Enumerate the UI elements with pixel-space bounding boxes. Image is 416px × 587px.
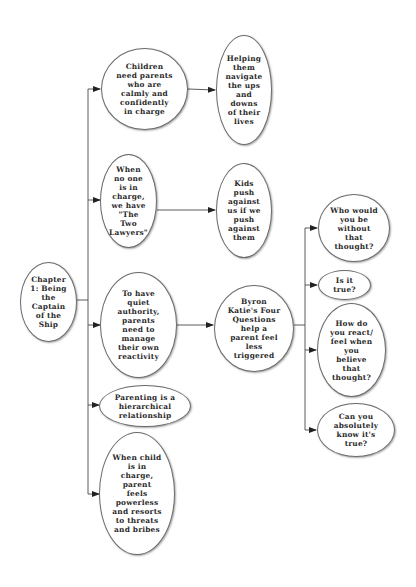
node-question-is-it-true: Is it true? [318, 270, 371, 300]
node-label: Kids push against us if we push against … [227, 179, 260, 242]
node-helping-them-navigate: Helping them navigate the ups and downs … [216, 35, 272, 145]
node-label: To have quiet authority, parents need to… [117, 289, 159, 361]
node-label: Who would you be without that thought? [330, 206, 378, 251]
node-children-need-parents: Children need parents who are calmly and… [101, 48, 188, 130]
node-label: Byron Katie's Four Questions help a pare… [228, 297, 281, 360]
node-hierarchical-relationship: Parenting is a hierarchical relationship [99, 385, 191, 427]
node-label: Helping them navigate the ups and downs … [226, 54, 263, 126]
node-label: When child is in charge, parent feels po… [112, 453, 161, 534]
node-kids-push-against: Kids push against us if we push against … [216, 163, 272, 258]
node-label: Can you absolutely know it's true? [334, 412, 378, 448]
node-two-lawyers: When no one is in charge, we have "The T… [100, 154, 157, 248]
node-question-absolutely-know: Can you absolutely know it's true? [317, 403, 395, 457]
node-label: When no one is in charge, we have "The T… [109, 165, 148, 237]
root-node-chapter-1: Chapter 1: Being the Captain of the Ship [20, 262, 77, 342]
node-label: How do you react/ feel when you believe … [330, 319, 373, 382]
node-question-how-do-you-react: How do you react/ feel when you believe … [317, 303, 386, 397]
node-label: Chapter 1: Being the Captain of the Ship [30, 275, 66, 329]
node-question-who-would-you-be: Who would you be without that thought? [318, 194, 390, 262]
node-label: Parenting is a hierarchical relationship [115, 393, 176, 420]
node-label: Is it true? [333, 276, 356, 294]
node-byron-katie-questions: Byron Katie's Four Questions help a pare… [214, 285, 294, 372]
node-quiet-authority: To have quiet authority, parents need to… [100, 272, 177, 378]
mind-map-diagram: Chapter 1: Being the Captain of the Ship… [0, 0, 416, 587]
node-label: Children need parents who are calmly and… [116, 62, 172, 116]
node-child-in-charge: When child is in charge, parent feels po… [99, 432, 175, 555]
